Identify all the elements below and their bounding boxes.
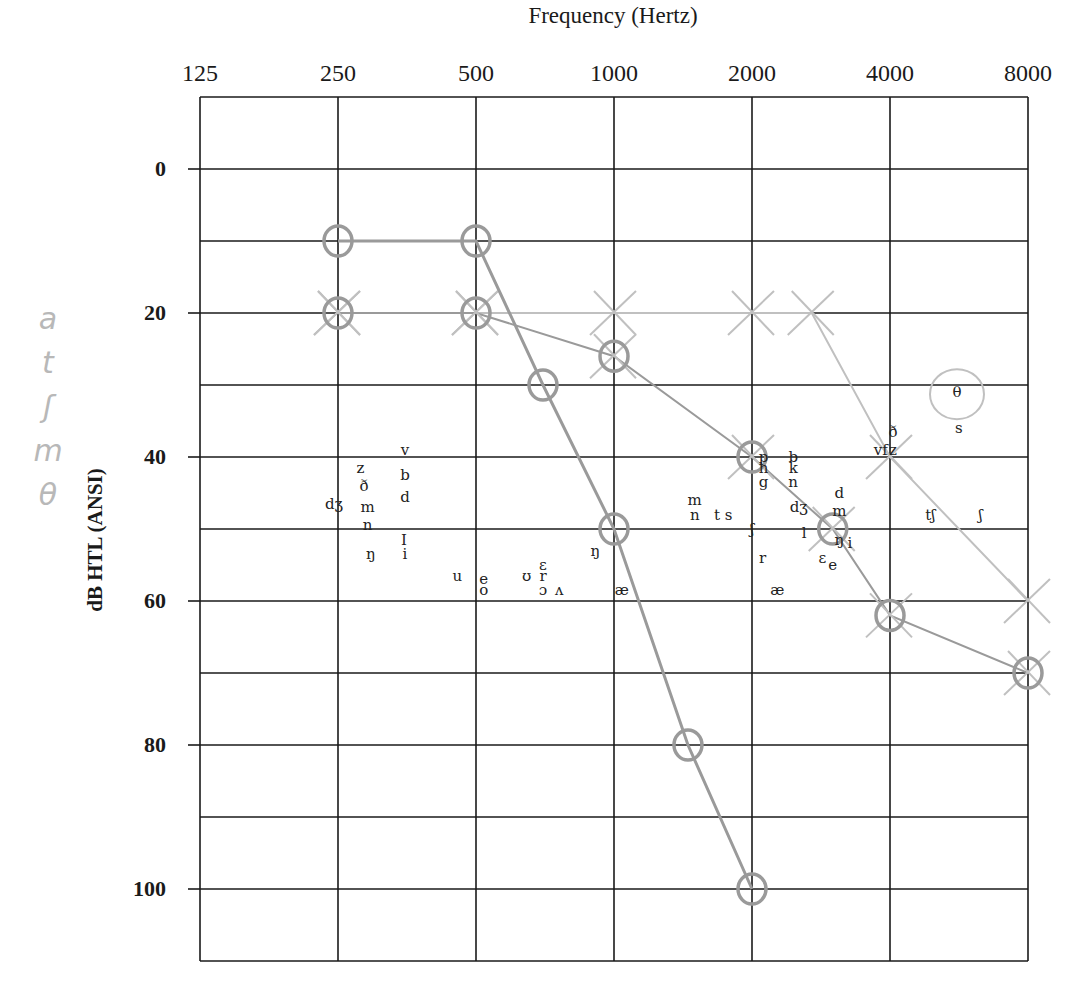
speech-sound-label: b xyxy=(400,468,410,483)
speech-sound-label: d xyxy=(400,489,410,504)
speech-sound-label: m xyxy=(360,500,374,515)
speech-sound-label: dʒ xyxy=(790,500,808,515)
speech-sound-label: ŋ xyxy=(590,543,600,558)
speech-sound-label: ɔ xyxy=(539,583,547,598)
speech-sound-label: vf xyxy=(874,442,888,457)
speech-sound-label: g xyxy=(759,475,769,490)
speech-sound-label: ŋ xyxy=(834,532,844,547)
speech-sound-label: ð xyxy=(360,478,369,493)
speech-sound-label: e xyxy=(828,558,837,573)
speech-sound-label: v xyxy=(401,442,409,457)
audiogram-plot xyxy=(0,0,1076,990)
speech-sound-label: æ xyxy=(770,583,784,598)
speech-sound-label: l xyxy=(802,525,807,540)
speech-sound-label: i xyxy=(847,536,852,551)
speech-sound-label: ʃ xyxy=(978,507,982,522)
speech-sound-label: tʃ xyxy=(925,507,935,522)
speech-sound-label: ʊ xyxy=(522,568,531,583)
speech-sound-label: n xyxy=(690,507,700,522)
speech-sound-label: z xyxy=(357,460,365,475)
speech-sound-label: ʃ xyxy=(750,522,754,537)
speech-sound-label: ð xyxy=(888,424,897,439)
speech-sound-label: ʌ xyxy=(555,583,563,598)
speech-sound-label: r xyxy=(759,550,766,565)
speech-sound-label: i xyxy=(403,547,408,562)
speech-sound-label: dʒ xyxy=(325,496,343,511)
speech-sound-label: d xyxy=(834,486,844,501)
speech-sound-label: m xyxy=(832,504,846,519)
speech-sound-label: n xyxy=(363,518,373,533)
speech-sound-label: θ xyxy=(952,385,961,400)
speech-sound-label: o xyxy=(479,583,488,598)
speech-sound-label: n xyxy=(788,475,798,490)
speech-sound-label: t s xyxy=(714,507,733,522)
speech-sound-label: æ xyxy=(615,583,629,598)
speech-sound-label: u xyxy=(452,568,462,583)
speech-sound-label: s xyxy=(955,421,963,436)
speech-sound-label: ŋ xyxy=(366,547,376,562)
speech-sound-label: ɛ xyxy=(819,550,827,565)
speech-sound-label: z xyxy=(889,442,897,457)
